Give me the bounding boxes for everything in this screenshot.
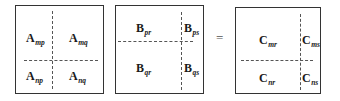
block-a-np: Anp [26,70,43,87]
matrix-b-vertical-divider [181,12,182,90]
block-c-ns: Cns [302,72,318,89]
equals-sign: = [216,31,223,44]
block-a-mq: Amq [69,32,88,49]
matrix-b-horizontal-divider [118,41,193,42]
block-b-qr: Bqr [136,62,151,79]
block-c-nr: Cnr [259,72,275,89]
matrix-a-horizontal-divider [24,60,98,61]
matrix-a-vertical-divider [52,11,53,89]
matrix-b [115,5,204,94]
block-a-nq: Anq [69,70,86,87]
block-b-ps: Bps [184,22,199,39]
block-b-qs: Bqs [184,62,199,79]
block-c-ms: Cms [302,34,320,51]
matrix-c-vertical-divider [300,14,301,90]
matrix-c-horizontal-divider [241,60,313,61]
block-c-mr: Cmr [259,34,277,51]
block-a-mp: Amp [26,32,45,49]
block-b-pr: Bpr [136,22,151,39]
